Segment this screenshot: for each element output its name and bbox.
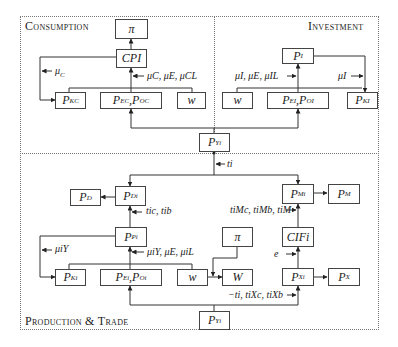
inflation-box-consumption: π xyxy=(115,19,148,39)
investment-price-box: PI xyxy=(282,48,314,64)
output-price-top-box: PYi xyxy=(199,133,230,152)
energy-other-price-investment-box: PEI, POI xyxy=(267,92,329,109)
capital-price-consumption-box: PKC xyxy=(55,92,86,109)
production-params-label: μiY, μE, μiL xyxy=(147,246,194,257)
connector-arrows xyxy=(0,0,398,347)
capital-price-investment-box: PKI xyxy=(347,92,378,109)
wage-box-production: w xyxy=(177,269,208,286)
exchange-rate-label: e xyxy=(274,248,278,259)
energy-other-price-production-box: PEi, POi xyxy=(100,269,162,286)
producer-price-box: PPi xyxy=(115,227,147,247)
mu-i-label: μI xyxy=(338,70,346,81)
capital-price-production-box: PKi xyxy=(55,269,86,286)
aggregate-domestic-price-box: PD xyxy=(70,189,101,206)
consumption-tax-label: tic, tib xyxy=(146,205,172,216)
wage-box-investment: w xyxy=(222,92,253,109)
cpi-box: CPI xyxy=(116,49,147,68)
cif-price-box: CIFi xyxy=(282,227,314,247)
mu-c-label: μC xyxy=(55,65,65,76)
output-price-bottom-box: PYi xyxy=(199,311,230,330)
mu-y-label: μiY xyxy=(55,243,68,254)
domestic-price-box: PDi xyxy=(115,186,146,206)
aggregate-import-price-box: PM xyxy=(328,184,360,204)
export-price-box: PXi xyxy=(282,268,314,286)
import-tax-label: tiMc, tiMb, tiM xyxy=(230,204,291,215)
consumption-params-label: μC, μE, μCL xyxy=(147,70,197,81)
export-tax-label: −ti, tiXc, tiXb xyxy=(228,289,283,300)
energy-other-price-consumption-box: PEC, POC xyxy=(100,92,162,109)
tax-label: ti xyxy=(227,158,233,169)
inflation-box-production: π xyxy=(222,227,253,247)
investment-params-label: μI, μE, μIL xyxy=(235,70,278,81)
aggregate-export-price-box: PX xyxy=(328,268,360,286)
nominal-wage-box: W xyxy=(222,269,253,286)
import-price-box: PMi xyxy=(282,184,314,204)
wage-box-consumption: w xyxy=(177,92,206,109)
